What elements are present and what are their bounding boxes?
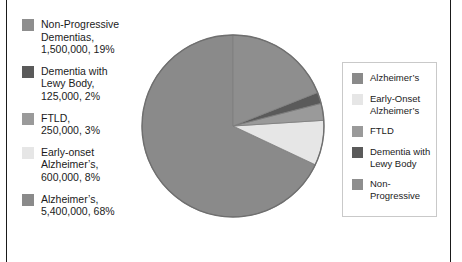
legend-item-dementia-with-lewy-body: Dementia withLewy Body bbox=[352, 146, 436, 169]
legend-swatch-alzheimers bbox=[352, 73, 363, 84]
data-label-swatch-ftld bbox=[22, 113, 34, 125]
data-label-swatch-dementia-with-lewy-body bbox=[22, 66, 34, 78]
legend-label-ftld: FTLD bbox=[370, 125, 394, 137]
data-label-line: 250,000, 3% bbox=[41, 124, 100, 137]
legend-item-alzheimers: Alzheimer’s bbox=[352, 72, 436, 84]
data-label-swatch-early-onset-alzheimers bbox=[22, 147, 34, 159]
legend-swatch-non-progressive bbox=[352, 179, 363, 190]
data-label-swatch-non-progressive bbox=[22, 19, 34, 31]
data-label-line: 125,000, 2% bbox=[41, 90, 108, 103]
data-label-dementia-with-lewy-body: Dementia withLewy Body,125,000, 2% bbox=[22, 65, 142, 103]
data-label-column: Non-ProgressiveDementias,1,500,000, 19%D… bbox=[22, 18, 142, 227]
legend-label-line: FTLD bbox=[370, 125, 394, 137]
legend-label-line: Alzheimer’s bbox=[370, 105, 420, 117]
data-label-line: FTLD, bbox=[41, 112, 100, 125]
data-label-line: Alzheimer’s, bbox=[41, 158, 100, 171]
legend-label-line: Early-Onset bbox=[370, 93, 420, 105]
data-label-line: 1,500,000, 19% bbox=[41, 43, 119, 56]
data-label-text-alzheimers: Alzheimer’s,5,400,000, 68% bbox=[41, 193, 115, 218]
left-frame-rule bbox=[6, 0, 7, 262]
pie-svg bbox=[140, 33, 326, 219]
data-label-line: Early-onset bbox=[41, 146, 100, 159]
legend-label-line: Non-Progressive bbox=[370, 178, 436, 201]
data-label-line: 600,000, 8% bbox=[41, 171, 100, 184]
legend-item-non-progressive: Non-Progressive bbox=[352, 178, 436, 201]
data-label-ftld: FTLD,250,000, 3% bbox=[22, 112, 142, 137]
legend-label-line: Dementia with bbox=[370, 146, 430, 158]
data-label-swatch-alzheimers bbox=[22, 194, 34, 206]
data-label-line: Dementias, bbox=[41, 31, 119, 44]
data-label-alzheimers: Alzheimer’s,5,400,000, 68% bbox=[22, 193, 142, 218]
data-label-text-non-progressive: Non-ProgressiveDementias,1,500,000, 19% bbox=[41, 18, 119, 56]
pie-chart bbox=[140, 33, 326, 219]
data-label-line: Non-Progressive bbox=[41, 18, 119, 31]
legend-swatch-ftld bbox=[352, 126, 363, 137]
data-label-text-ftld: FTLD,250,000, 3% bbox=[41, 112, 100, 137]
data-label-line: 5,400,000, 68% bbox=[41, 205, 115, 218]
legend-swatch-dementia-with-lewy-body bbox=[352, 147, 363, 158]
data-label-line: Lewy Body, bbox=[41, 77, 108, 90]
legend-label-dementia-with-lewy-body: Dementia withLewy Body bbox=[370, 146, 430, 169]
legend-item-ftld: FTLD bbox=[352, 125, 436, 137]
legend-label-alzheimers: Alzheimer’s bbox=[370, 72, 419, 84]
chart-figure: Non-ProgressiveDementias,1,500,000, 19%D… bbox=[0, 0, 462, 262]
data-label-text-early-onset-alzheimers: Early-onsetAlzheimer’s,600,000, 8% bbox=[41, 146, 100, 184]
data-label-line: Dementia with bbox=[41, 65, 108, 78]
data-label-early-onset-alzheimers: Early-onsetAlzheimer’s,600,000, 8% bbox=[22, 146, 142, 184]
legend-box: Alzheimer’sEarly-OnsetAlzheimer’sFTLDDem… bbox=[342, 62, 437, 217]
legend-label-early-onset-alzheimers: Early-OnsetAlzheimer’s bbox=[370, 93, 420, 116]
legend-item-early-onset-alzheimers: Early-OnsetAlzheimer’s bbox=[352, 93, 436, 116]
data-label-line: Alzheimer’s, bbox=[41, 193, 115, 206]
data-label-text-dementia-with-lewy-body: Dementia withLewy Body,125,000, 2% bbox=[41, 65, 108, 103]
legend-label-non-progressive: Non-Progressive bbox=[370, 178, 436, 201]
right-frame-rule bbox=[450, 0, 451, 262]
pie-slice-group bbox=[142, 35, 324, 217]
legend-label-line: Lewy Body bbox=[370, 158, 430, 170]
legend-swatch-early-onset-alzheimers bbox=[352, 94, 363, 105]
legend-label-line: Alzheimer’s bbox=[370, 72, 419, 84]
data-label-non-progressive: Non-ProgressiveDementias,1,500,000, 19% bbox=[22, 18, 142, 56]
